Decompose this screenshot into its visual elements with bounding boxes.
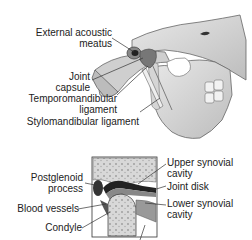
label-line: Upper synovial: [167, 157, 233, 168]
label-line: process: [20, 183, 83, 194]
label-lower-synovial-cavity: Lower synovial cavity: [167, 198, 233, 220]
label-line: Lower synovial: [167, 198, 233, 209]
label-line: Blood vessels: [10, 203, 79, 214]
inset-cross-section: [92, 157, 157, 237]
label-condyle: Condyle: [30, 222, 82, 233]
label-stylomandibular-ligament: Stylomandibular ligament: [20, 116, 139, 127]
label-line: cavity: [167, 168, 233, 179]
label-line: cavity: [167, 209, 233, 220]
label-line: Postglenoid: [20, 172, 83, 183]
label-external-acoustic-meatus: External acoustic meatus: [31, 27, 112, 49]
label-line: Joint: [40, 71, 90, 82]
label-line: Condyle: [30, 222, 82, 233]
label-line: capsule: [40, 82, 90, 93]
label-blood-vessels: Blood vessels: [10, 203, 79, 214]
label-line: Temporomandibular: [20, 93, 117, 104]
label-line: Stylomandibular ligament: [20, 116, 139, 127]
label-line: Joint disk: [167, 181, 209, 192]
label-line: ligament: [20, 104, 117, 115]
label-temporomandibular-ligament: Temporomandibular ligament: [20, 93, 117, 115]
label-line: External acoustic: [31, 27, 112, 38]
label-joint-capsule: Joint capsule: [40, 71, 90, 93]
label-line: meatus: [31, 38, 112, 49]
label-joint-disk: Joint disk: [167, 181, 209, 192]
label-postglenoid-process: Postglenoid process: [20, 172, 83, 194]
label-upper-synovial-cavity: Upper synovial cavity: [167, 157, 233, 179]
